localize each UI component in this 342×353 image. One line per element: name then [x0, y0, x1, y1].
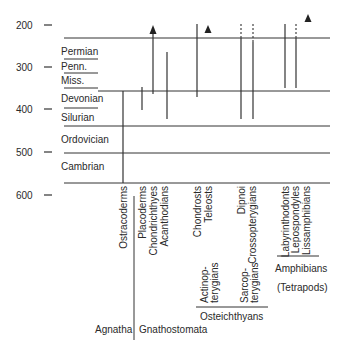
group-gnathostomata: Gnathostomata: [139, 324, 208, 335]
taxon-teleosts: Teleosts: [203, 186, 214, 223]
taxon-ostracoderms: Ostracoderms: [118, 186, 129, 249]
subgroup-labels: Actinop- terygians Sarcop- terygians: [199, 262, 260, 303]
taxon-lepospondyles: Lepospondyles: [290, 186, 301, 253]
group-osteichthyans: Osteichthyans: [200, 311, 263, 322]
arrow-up-icon: [205, 25, 212, 33]
tick-label-400: 400: [16, 104, 33, 115]
y-axis: 200 300 400 500 600: [16, 20, 52, 201]
period-devonian: Devonian: [61, 93, 103, 104]
tick-label-600: 600: [16, 190, 33, 201]
phylogeny-diagram: 200 300 400 500 600 Permian Penn. Miss. …: [0, 0, 342, 353]
taxon-chondrosts: Chondrosts: [192, 186, 203, 237]
period-miss: Miss.: [61, 75, 84, 86]
tick-label-200: 200: [16, 20, 33, 31]
taxon-dipnoi: Dipnoi: [236, 186, 247, 214]
arrowheads: [150, 14, 312, 34]
period-permian: Permian: [61, 46, 98, 57]
group-agnatha: Agnatha: [95, 324, 133, 335]
tick-label-500: 500: [16, 147, 33, 158]
period-silurian: Silurian: [61, 112, 94, 123]
taxon-acanthodians: Acanthodians: [159, 186, 170, 247]
taxon-placoderms: Placoderms: [137, 186, 148, 239]
subgroup-actinopterygians-2: terygians: [209, 262, 220, 303]
tick-label-300: 300: [16, 62, 33, 73]
taxon-labels: Ostracoderms Placoderms Chondrichthyes A…: [118, 186, 312, 264]
taxon-lissamphibians: Lissamphibians: [301, 186, 312, 255]
period-ordovician: Ordovician: [61, 134, 109, 145]
period-cambrian: Cambrian: [61, 161, 104, 172]
arrow-up-icon: [150, 25, 157, 34]
arrow-up-icon: [305, 14, 312, 22]
taxon-crossopterygians: Crossopterygians: [247, 186, 258, 264]
taxon-chondrichthyes: Chondrichthyes: [148, 186, 159, 255]
group-tetrapods: (Tetrapods): [277, 282, 328, 293]
taxon-ranges: [123, 24, 296, 183]
uncertain-extensions: [241, 24, 296, 42]
subgroup-sarcopterygians-2: terygians: [249, 262, 260, 303]
group-amphibians: Amphibians: [275, 263, 327, 274]
period-penn: Penn.: [61, 61, 87, 72]
